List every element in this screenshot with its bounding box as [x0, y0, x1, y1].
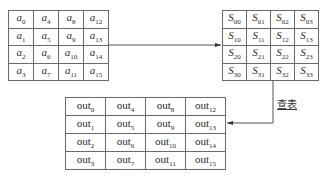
arrow-sbox-to-output: [227, 80, 273, 123]
lookup-table-label: 查表: [277, 96, 297, 111]
connector-arrows: [0, 0, 330, 181]
